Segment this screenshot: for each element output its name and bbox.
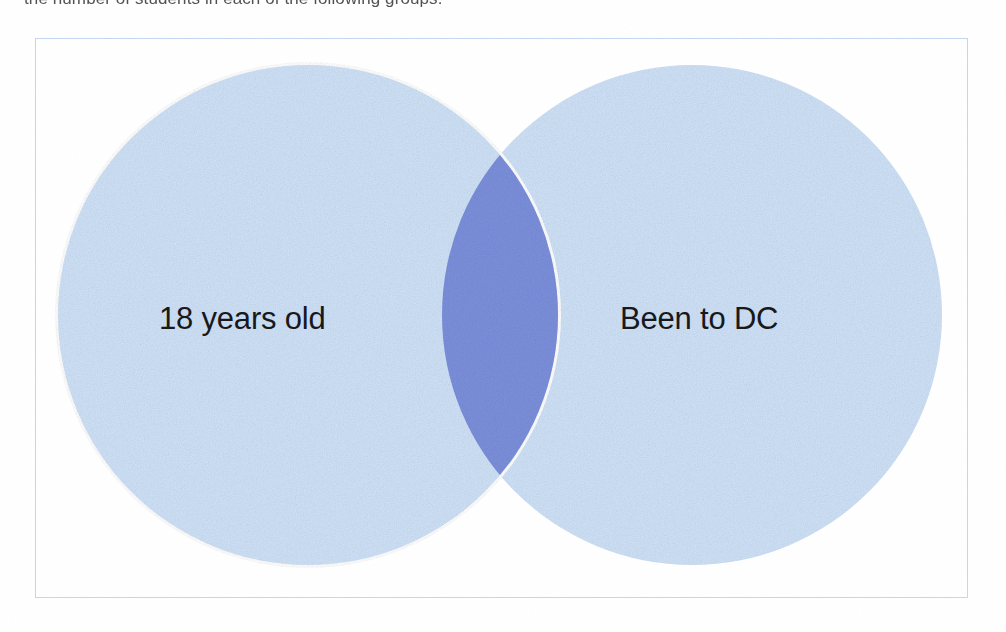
venn-label-left: 18 years old [159,301,325,337]
instruction-text: the number of students in each of the fo… [24,0,784,10]
venn-label-right: Been to DC [620,301,778,337]
